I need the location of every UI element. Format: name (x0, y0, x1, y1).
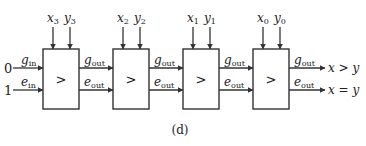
x0-label: x0 (257, 11, 269, 26)
comparator-block-0: x0 y0 > gout eout (253, 11, 325, 109)
output-equal-label: x = y (328, 83, 359, 97)
x2-label: x2 (117, 11, 129, 26)
comparator-block-3: x3 y3 > gout eout (43, 11, 113, 109)
e-out-label: eout (84, 75, 105, 90)
comparator-block-1: x1 y1 > gout eout (183, 11, 253, 109)
greater-symbol: > (56, 72, 67, 87)
g-out-label: gout (84, 53, 106, 68)
g-in-label: gin (21, 53, 36, 68)
e-in-value: 1 (4, 83, 12, 98)
x3-label: x3 (47, 11, 59, 26)
e-out-label: eout (294, 75, 315, 90)
y3-label: y3 (63, 11, 76, 26)
y1-label: y1 (203, 11, 216, 26)
e-in-label: ein (21, 75, 36, 90)
e-out-label: eout (224, 75, 245, 90)
greater-symbol: > (126, 72, 137, 87)
greater-symbol: > (266, 72, 277, 87)
g-out-label: gout (224, 53, 246, 68)
g-out-label: gout (154, 53, 176, 68)
comparator-block-2: x2 y2 > gout eout (113, 11, 183, 109)
g-out-label: gout (294, 53, 316, 68)
figure-caption: (d) (171, 123, 188, 137)
greater-symbol: > (196, 72, 207, 87)
y2-label: y2 (133, 11, 146, 26)
x1-label: x1 (187, 11, 199, 26)
e-out-label: eout (154, 75, 175, 90)
g-in-value: 0 (4, 61, 12, 76)
comparator-chain-diagram: 0 1 gin ein x3 y3 > gout eout x2 y2 > go… (0, 0, 366, 146)
y0-label: y0 (273, 11, 286, 26)
output-greater-label: x > y (328, 61, 359, 75)
